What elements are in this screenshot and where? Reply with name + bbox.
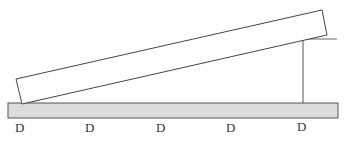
label-d-3: D [156, 120, 165, 135]
label-d-2: D [85, 120, 94, 135]
diagram-canvas: D D D D D [0, 0, 348, 144]
base-board [8, 103, 338, 118]
label-d-1: D [15, 120, 24, 135]
inclined-plank [16, 10, 327, 104]
label-d-4: D [226, 120, 235, 135]
label-d-5: D [297, 119, 306, 134]
